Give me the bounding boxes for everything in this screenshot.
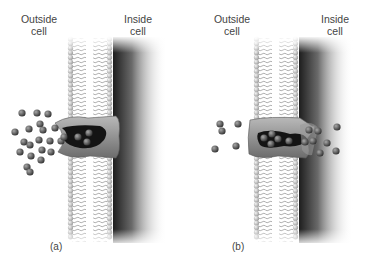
inside-cell-label-a: Inside cell: [108, 13, 168, 37]
label-line: Inside: [108, 13, 168, 25]
label-line: Outside: [202, 13, 262, 25]
label-line: Outside: [9, 13, 69, 25]
panel-b-caption: (b): [232, 241, 244, 252]
outside-cell-label-b: Outside cell: [202, 13, 262, 37]
membrane-transport-diagram: [0, 0, 366, 266]
label-line: cell: [202, 25, 262, 37]
label-line: cell: [305, 25, 365, 37]
transport-protein-open-inside: [248, 117, 318, 158]
panel-a-caption: (a): [50, 241, 62, 252]
label-line: Inside: [305, 13, 365, 25]
label-line: cell: [9, 25, 69, 37]
label-line: cell: [108, 25, 168, 37]
panel-a: [11, 36, 167, 243]
panel-b: [211, 36, 353, 243]
outside-cell-label-a: Outside cell: [9, 13, 69, 37]
inside-cell-label-b: Inside cell: [305, 13, 365, 37]
